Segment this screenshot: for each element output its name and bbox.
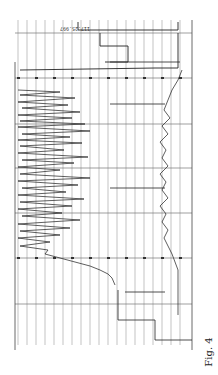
figure-caption-text: Fig. 4: [203, 337, 214, 366]
patent-figure: 117.25.997 Fig. 4: [0, 0, 218, 375]
trace-bottom-step: [118, 290, 192, 340]
figure-caption: Fig. 4: [198, 332, 218, 372]
recorder-annotation: 117.25.997: [60, 26, 90, 32]
strip-chart: [0, 0, 218, 375]
trace-high-amplitude: [18, 90, 115, 285]
